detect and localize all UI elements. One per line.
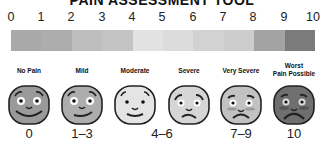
bar-segment [41, 30, 71, 51]
page-title: PAIN ASSESSMENT TOOL [0, 0, 324, 8]
bar-segment [11, 30, 41, 51]
face-no-pain-icon [7, 84, 51, 126]
bar-segment [72, 30, 102, 51]
face-label-moderate: Moderate [105, 67, 165, 75]
scale-number: 2 [68, 10, 75, 24]
scale-number: 3 [99, 10, 106, 24]
face-label-no-pain: No Pain [0, 67, 59, 75]
bar-segment [193, 30, 223, 51]
scale-number: 6 [190, 10, 197, 24]
face-label-worst-pain: WorstPain Possible [264, 62, 324, 77]
face-label-mild: Mild [52, 67, 112, 75]
bar-segment [133, 30, 163, 51]
scale-number: 1 [38, 10, 45, 24]
scale-number: 8 [250, 10, 257, 24]
scale-number: 7 [220, 10, 227, 24]
bar-segment [285, 30, 315, 51]
range-label: 10 [287, 126, 301, 141]
range-label: 7–9 [230, 126, 252, 141]
bar-segment [254, 30, 284, 51]
face-mild-icon [60, 84, 104, 126]
bar-segment [224, 30, 254, 51]
scale-number: 10 [306, 10, 320, 24]
bar-segment [102, 30, 132, 51]
face-label-very-severe: Very Severe [211, 67, 271, 75]
bar-segment [163, 30, 193, 51]
scale-number: 5 [159, 10, 166, 24]
pain-gradient-bar [11, 30, 315, 51]
face-severe-icon [167, 84, 211, 126]
face-moderate-icon [113, 84, 157, 126]
face-label-severe: Severe [159, 67, 219, 75]
range-label: 0 [25, 126, 32, 141]
face-worst-pain-icon [272, 84, 316, 126]
scale-numbers: 0 1 2 3 4 5 6 7 8 9 10 [0, 10, 324, 26]
scale-number: 0 [8, 10, 15, 24]
range-label: 4–6 [151, 126, 173, 141]
face-very-severe-icon [219, 84, 263, 126]
scale-number: 4 [129, 10, 136, 24]
range-label: 1–3 [71, 126, 93, 141]
scale-number: 9 [281, 10, 288, 24]
